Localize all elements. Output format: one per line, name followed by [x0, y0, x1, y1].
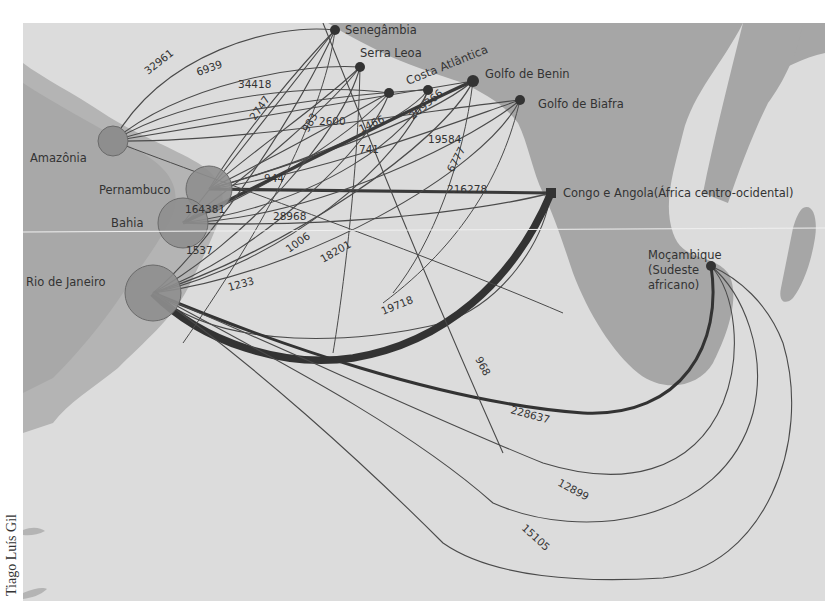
flow-label: 34418 [238, 78, 271, 90]
flow-label: 944 [264, 172, 284, 184]
flow-label: 741 [359, 143, 379, 155]
label-golfo-biafra: Golfo de Biafra [538, 97, 624, 111]
label-golfo-benin: Golfo de Benin [485, 67, 570, 81]
label-serra-leoa: Serra Leoa [360, 46, 422, 60]
flow-label: 19584 [428, 133, 462, 145]
label-senegambia: Senegâmbia [345, 23, 417, 37]
label-amazonia: Amazônia [30, 151, 87, 165]
label-mocambique-2: (Sudeste [648, 263, 699, 277]
slave-trade-flow-map: Senegâmbia Serra Leoa Costa Atlântica Go… [23, 23, 825, 601]
label-rio: Rio de Janeiro [26, 275, 105, 289]
node-golfo-benin[interactable] [467, 75, 479, 87]
node-golfo-biafra[interactable] [515, 95, 525, 105]
port-amazonia[interactable] [98, 126, 128, 156]
node-senegambia[interactable] [330, 25, 340, 35]
flow-label: 216278 [447, 183, 487, 195]
label-mocambique-3: africano) [648, 278, 699, 292]
label-congo-angola: Congo e Angola(África centro-ocidental) [563, 185, 794, 200]
flow-label: 1537 [186, 244, 213, 256]
node-congo-angola[interactable] [546, 188, 556, 198]
node-costa-1[interactable] [384, 88, 394, 98]
flow-label: 2600 [319, 115, 346, 127]
label-pernambuco: Pernambuco [99, 183, 171, 197]
node-serra-leoa[interactable] [355, 62, 365, 72]
node-mocambique[interactable] [706, 261, 716, 271]
flow-label: 28968 [273, 210, 306, 222]
port-rio[interactable] [125, 265, 181, 321]
flow-label: 164381 [185, 203, 225, 215]
author-credit: Tiago Luís Gil [4, 514, 20, 596]
label-bahia: Bahia [111, 216, 143, 230]
label-mocambique-1: Moçambique [648, 248, 722, 262]
